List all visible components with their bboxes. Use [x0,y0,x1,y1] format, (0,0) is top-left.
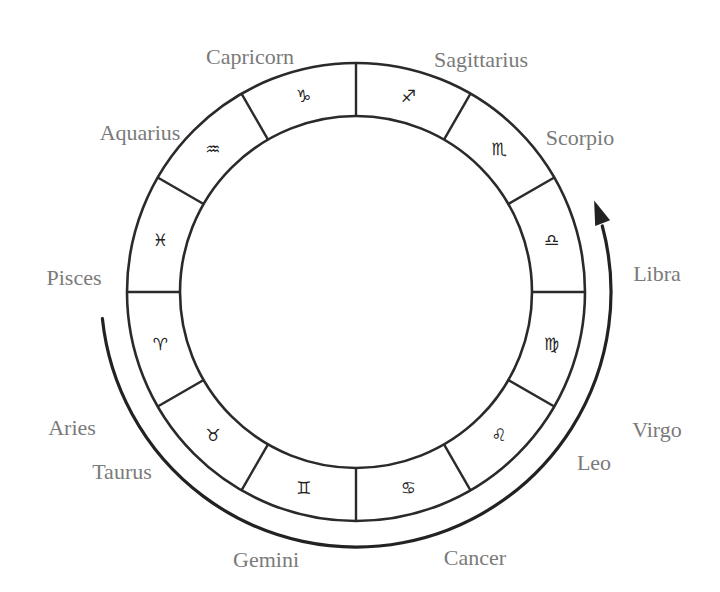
zodiac-symbol-libra: ♎ [544,230,559,250]
sector-divider [242,444,269,490]
zodiac-glyphs: ♑♐♏♎♍♌♋♊♉♈♓♒ [153,86,559,497]
zodiac-symbol-gemini: ♊ [296,478,311,498]
zodiac-symbol-virgo: ♍ [544,334,559,354]
zodiac-label-taurus: Taurus [92,459,152,484]
zodiac-label-cancer: Cancer [444,545,507,570]
zodiac-symbol-aquarius: ♒ [205,139,220,159]
zodiac-label-scorpio: Scorpio [546,125,614,150]
zodiac-rings [127,63,585,521]
sector-dividers [127,63,585,521]
zodiac-diagram: ♑♐♏♎♍♌♋♊♉♈♓♒ CapricornSagittariusScorpio… [0,0,720,592]
zodiac-labels: CapricornSagittariusScorpioLibraVirgoLeo… [47,44,682,572]
arrowhead-icon [594,201,610,226]
sector-divider [508,380,554,407]
zodiac-label-aquarius: Aquarius [100,120,181,145]
sector-divider [158,380,204,407]
sector-divider [242,94,269,140]
zodiac-symbol-taurus: ♉ [205,425,220,445]
inner-ring [180,116,532,468]
zodiac-symbol-leo: ♌ [492,425,507,445]
zodiac-symbol-aries: ♈ [153,334,168,354]
zodiac-label-capricorn: Capricorn [206,44,294,69]
zodiac-label-gemini: Gemini [233,547,299,572]
zodiac-symbol-scorpio: ♏ [492,139,507,159]
zodiac-label-leo: Leo [577,450,611,475]
sector-divider [158,178,204,205]
zodiac-label-virgo: Virgo [632,417,682,442]
zodiac-label-aries: Aries [48,415,96,440]
zodiac-label-sagittarius: Sagittarius [434,47,528,72]
outer-ring [127,63,585,521]
sector-divider [444,94,471,140]
zodiac-symbol-sagittarius: ♐ [401,86,416,106]
zodiac-symbol-pisces: ♓ [153,230,168,250]
zodiac-symbol-capricorn: ♑ [296,86,311,106]
zodiac-symbol-cancer: ♋ [401,478,416,498]
zodiac-label-pisces: Pisces [47,265,102,290]
zodiac-label-libra: Libra [633,261,681,286]
sector-divider [508,178,554,205]
sector-divider [444,444,471,490]
zodiac-wheel-svg: ♑♐♏♎♍♌♋♊♉♈♓♒ CapricornSagittariusScorpio… [0,0,720,592]
